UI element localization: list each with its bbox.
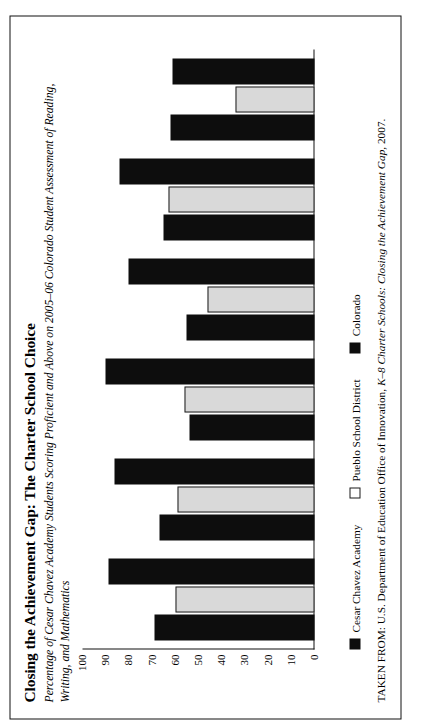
bar-co <box>172 58 314 84</box>
bar-psd <box>168 186 314 212</box>
figure-border-box: Closing the Achievement Gap: The Charter… <box>9 15 401 719</box>
legend-swatch <box>349 487 360 498</box>
y-axis-tick-label: 70 <box>146 654 157 665</box>
legend-item: Cesar Chavez Academy <box>349 524 361 649</box>
legend-swatch <box>349 342 360 353</box>
source-note-prefix: TAKEN FROM: U.S. Department of Education… <box>374 386 386 702</box>
figure-canvas: Closing the Achievement Gap: The Charter… <box>0 0 429 727</box>
bar-cca <box>159 514 314 540</box>
legend-swatch <box>349 638 360 649</box>
bar-psd <box>177 486 314 512</box>
source-note-title: K–8 Charter Schools: Closing the Achieve… <box>374 146 386 385</box>
bar-group-bars <box>82 455 314 543</box>
figure-subtitle-line-2: Writing, and Mathematics <box>57 42 73 702</box>
figure-subtitle-line-1: Percentage of Cesar Chavez Academy Stude… <box>42 83 55 702</box>
y-axis-line <box>82 648 314 649</box>
legend-item: Colorado <box>349 294 361 353</box>
figure-subtitle: Percentage of Cesar Chavez Academy Stude… <box>41 42 72 702</box>
bar-group-bars <box>82 555 314 643</box>
bar-cca <box>170 114 314 140</box>
bar-co <box>105 358 314 384</box>
figure-title: Closing the Achievement Gap: The Charter… <box>20 323 38 702</box>
legend-label: Colorado <box>349 294 361 336</box>
legend-item: Pueblo School District <box>349 379 361 498</box>
bar-group-bars <box>82 155 314 243</box>
y-axis-tick-label: 60 <box>169 654 180 665</box>
bar-psd <box>207 286 314 312</box>
chart-legend: Cesar Chavez AcademyPueblo School Distri… <box>348 268 361 649</box>
source-note: TAKEN FROM: U.S. Department of Education… <box>374 118 386 702</box>
y-axis-tick-label: 30 <box>239 654 250 665</box>
bar-psd <box>175 586 314 612</box>
bar-cca <box>189 414 314 440</box>
y-axis-tick-label: 40 <box>216 654 227 665</box>
bar-co <box>108 558 314 584</box>
y-axis-tick-label: 80 <box>123 654 134 665</box>
y-axis-tick-label: 10 <box>285 654 296 665</box>
bar-cca <box>186 314 314 340</box>
bar-cca <box>154 614 314 640</box>
chart-plot-area: 0102030405060708090100Grades 3–5ReadingG… <box>82 49 314 649</box>
y-axis-tick-label: 20 <box>262 654 273 665</box>
bar-psd <box>184 386 314 412</box>
bar-group-bars <box>82 255 314 343</box>
bar-co <box>114 458 314 484</box>
legend-label: Pueblo School District <box>349 379 361 481</box>
bar-group-bars <box>82 355 314 443</box>
bar-co <box>128 258 314 284</box>
y-axis-tick-label: 0 <box>309 654 320 660</box>
bar-cca <box>163 214 314 240</box>
y-axis-tick-label: 90 <box>100 654 111 665</box>
y-axis-tick-label: 100 <box>77 654 88 671</box>
legend-label: Cesar Chavez Academy <box>349 524 361 632</box>
rotated-page-wrapper: Closing the Achievement Gap: The Charter… <box>0 0 429 727</box>
bar-co <box>119 158 314 184</box>
bar-psd <box>235 86 314 112</box>
bar-group-bars <box>82 55 314 143</box>
y-axis-tick-label: 50 <box>193 654 204 665</box>
source-note-suffix: 2007. <box>374 118 386 146</box>
